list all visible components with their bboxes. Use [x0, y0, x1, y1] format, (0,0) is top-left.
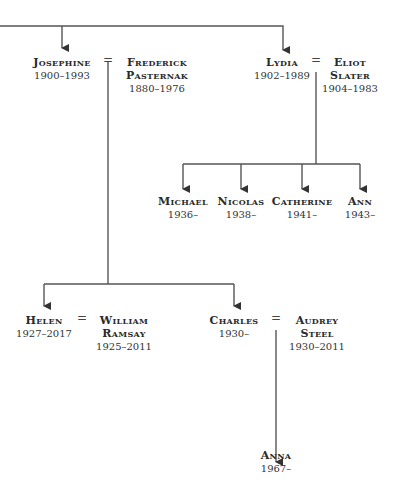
person-surname: Pasternak — [126, 69, 188, 82]
person-dates: 1904–1983 — [322, 82, 378, 95]
person-dates: 1927–2017 — [16, 327, 72, 340]
marriage-symbol: = — [77, 311, 87, 325]
person-name: Nicolas — [218, 195, 265, 208]
person-lydia: Lydia 1902–1989 — [254, 56, 310, 82]
person-dates: 1880–1976 — [126, 82, 188, 95]
person-anna: Anna 1967– — [261, 449, 292, 475]
person-michael: Michael 1936– — [158, 195, 208, 221]
person-name: Josephine — [33, 56, 90, 69]
person-name: Anna — [261, 449, 292, 462]
person-catherine: Catherine 1941– — [272, 195, 333, 221]
person-dates: 1925–2011 — [96, 340, 152, 353]
person-surname: Ramsay — [96, 327, 152, 340]
person-dates: 1941– — [272, 208, 333, 221]
person-dates: 1936– — [158, 208, 208, 221]
person-william-ramsay: William Ramsay 1925–2011 — [96, 314, 152, 353]
person-charles: Charles 1930– — [210, 314, 259, 340]
person-dates: 1930– — [210, 327, 259, 340]
person-ann: Ann 1943– — [345, 195, 375, 221]
person-name: Lydia — [254, 56, 310, 69]
person-surname: Slater — [322, 69, 378, 82]
person-name: Eliot — [322, 56, 378, 69]
person-eliot-slater: Eliot Slater 1904–1983 — [322, 56, 378, 95]
person-dates: 1900–1993 — [33, 69, 90, 82]
person-name: Helen — [16, 314, 72, 327]
person-dates: 1938– — [218, 208, 265, 221]
person-name: Charles — [210, 314, 259, 327]
person-helen: Helen 1927–2017 — [16, 314, 72, 340]
person-name: Ann — [345, 195, 375, 208]
person-nicolas: Nicolas 1938– — [218, 195, 265, 221]
person-dates: 1902–1989 — [254, 69, 310, 82]
person-name: William — [96, 314, 152, 327]
marriage-symbol: = — [103, 53, 113, 67]
person-dates: 1930–2011 — [289, 340, 345, 353]
person-name: Catherine — [272, 195, 333, 208]
person-josephine: Josephine 1900–1993 — [33, 56, 90, 82]
person-name: Audrey — [289, 314, 345, 327]
person-dates: 1967– — [261, 462, 292, 475]
person-name: Frederick — [126, 56, 188, 69]
person-surname: Steel — [289, 327, 345, 340]
marriage-symbol: = — [311, 53, 321, 67]
person-name: Michael — [158, 195, 208, 208]
person-frederick-pasternak: Frederick Pasternak 1880–1976 — [126, 56, 188, 95]
person-dates: 1943– — [345, 208, 375, 221]
marriage-symbol: = — [271, 311, 281, 325]
person-audrey-steel: Audrey Steel 1930–2011 — [289, 314, 345, 353]
